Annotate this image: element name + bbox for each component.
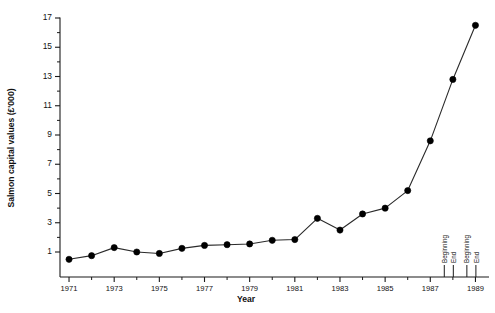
data-point-marker xyxy=(66,256,72,262)
data-point-marker xyxy=(405,187,411,193)
y-tick-label: 13 xyxy=(43,71,53,81)
line-chart: 1357911131517 19711973197519771979198119… xyxy=(0,0,495,313)
data-point-marker xyxy=(111,245,117,251)
x-tick-label: 1985 xyxy=(377,284,394,293)
x-tick-label: 1983 xyxy=(332,284,349,293)
data-point-marker xyxy=(359,211,365,217)
phase-annotation-label: End xyxy=(473,251,480,263)
y-tick-label: 7 xyxy=(47,158,52,168)
chart-background xyxy=(0,0,495,313)
x-tick-label: 1975 xyxy=(151,284,168,293)
x-tick-label: 1977 xyxy=(196,284,213,293)
data-point-marker xyxy=(472,22,478,28)
phase-annotation-label: Beginning xyxy=(463,234,471,263)
x-tick-label: 1973 xyxy=(106,284,123,293)
chart-container: 1357911131517 19711973197519771979198119… xyxy=(0,0,495,313)
y-tick-label: 5 xyxy=(47,188,52,198)
y-tick-label: 3 xyxy=(47,217,52,227)
data-point-marker xyxy=(292,236,298,242)
x-tick-label: 1979 xyxy=(241,284,258,293)
data-point-marker xyxy=(89,253,95,259)
data-point-marker xyxy=(337,227,343,233)
data-point-marker xyxy=(450,76,456,82)
data-point-marker xyxy=(427,138,433,144)
data-point-marker xyxy=(201,242,207,248)
y-tick-label: 9 xyxy=(47,129,52,139)
data-point-marker xyxy=(179,245,185,251)
y-tick-label: 11 xyxy=(43,100,52,110)
data-point-marker xyxy=(134,249,140,255)
x-tick-label: 1987 xyxy=(422,284,439,293)
x-axis-title: Year xyxy=(237,294,256,304)
data-point-marker xyxy=(314,215,320,221)
y-axis-title: Salmon capital values (£'000) xyxy=(6,88,16,207)
phase-annotation-label: Beginning xyxy=(441,234,449,263)
data-point-marker xyxy=(382,205,388,211)
y-tick-label: 1 xyxy=(47,246,52,256)
data-point-marker xyxy=(156,250,162,256)
data-point-marker xyxy=(224,242,230,248)
y-tick-label: 17 xyxy=(43,12,53,22)
x-tick-label: 1989 xyxy=(467,284,484,293)
x-tick-label: 1971 xyxy=(61,284,78,293)
x-tick-label: 1981 xyxy=(286,284,303,293)
phase-annotation-label: End xyxy=(450,251,457,263)
y-tick-label: 15 xyxy=(43,41,53,51)
data-point-marker xyxy=(247,241,253,247)
data-point-marker xyxy=(269,237,275,243)
